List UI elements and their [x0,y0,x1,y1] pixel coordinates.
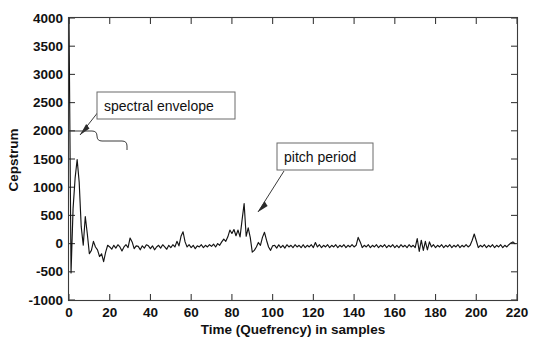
y-tick-label: 1500 [33,152,63,167]
y-axis-title: Cepstrum [6,128,21,191]
chart-svg: -1000-5000500100015002000250030003500400… [0,0,550,346]
x-tick-label: 80 [224,305,239,320]
y-tick-label: -1000 [28,293,63,308]
y-tick-label: 2000 [33,123,63,138]
x-tick-label: 20 [102,305,117,320]
x-tick-label: 200 [465,305,488,320]
x-tick-label: 140 [343,305,366,320]
y-tick-label: 0 [55,236,63,251]
x-tick-label: 60 [184,305,199,320]
y-tick-label: 500 [40,208,63,223]
x-tick-label: 220 [506,305,529,320]
x-tick-label: 120 [302,305,325,320]
x-tick-label: 180 [424,305,447,320]
y-tick-label: 1000 [33,180,63,195]
x-tick-label: 100 [261,305,284,320]
y-tick-label: 3500 [33,39,63,54]
spectral-envelope-label: spectral envelope [104,98,214,114]
x-tick-label: 0 [65,305,73,320]
y-tick-label: 2500 [33,95,63,110]
x-axis-title: Time (Quefrency) in samples [201,322,385,337]
y-tick-label: 3000 [33,67,63,82]
x-tick-label: 160 [384,305,407,320]
x-tick-label: 40 [143,305,158,320]
cepstrum-figure: -1000-5000500100015002000250030003500400… [0,0,550,346]
y-tick-label: 4000 [33,11,63,26]
figure-background [0,0,550,346]
y-tick-label: -500 [36,264,63,279]
pitch-period-label: pitch period [284,149,356,165]
